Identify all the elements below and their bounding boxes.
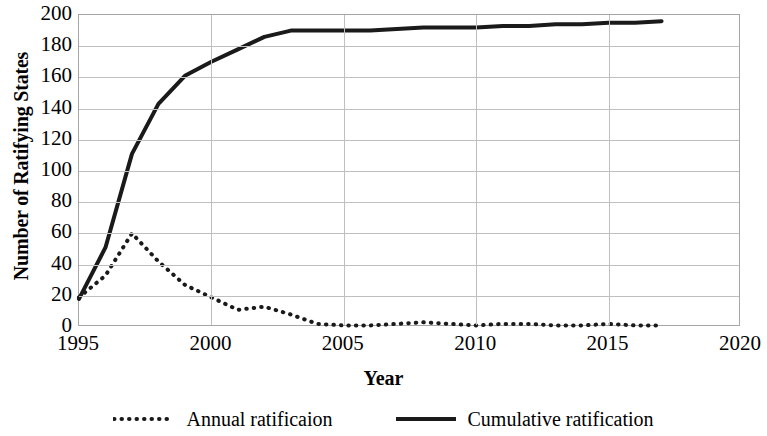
gridline-vertical <box>609 15 610 325</box>
legend-label-annual: Annual ratificaion <box>186 407 332 431</box>
x-tick-label: 2005 <box>298 331 388 355</box>
x-tick-label: 2020 <box>695 331 767 355</box>
gridline-horizontal <box>79 296 739 297</box>
solid-line-icon <box>395 413 457 425</box>
gridline-horizontal <box>79 171 739 172</box>
y-tick-label: 180 <box>22 34 72 55</box>
legend-label-cumulative: Cumulative ratification <box>468 407 654 431</box>
gridline-horizontal <box>79 109 739 110</box>
y-tick-label: 80 <box>22 190 72 211</box>
annual-ratification-line <box>79 233 662 325</box>
gridline-vertical <box>344 15 345 325</box>
gridline-horizontal <box>79 202 739 203</box>
y-tick-label: 60 <box>22 221 72 242</box>
y-tick-label: 100 <box>22 159 72 180</box>
gridline-horizontal <box>79 265 739 266</box>
y-tick-label: 140 <box>22 97 72 118</box>
chart-legend: Annual ratificaion Cumulative ratificati… <box>0 404 767 434</box>
gridline-vertical <box>476 15 477 325</box>
gridline-horizontal <box>79 233 739 234</box>
plot-area <box>78 14 740 326</box>
cumulative-ratification-line <box>79 21 662 299</box>
x-tick-label: 1995 <box>33 331 123 355</box>
y-tick-label: 40 <box>22 253 72 274</box>
gridline-vertical <box>211 15 212 325</box>
x-axis-title: Year <box>0 366 767 390</box>
x-tick-label: 2015 <box>563 331 653 355</box>
y-tick-label: 20 <box>22 284 72 305</box>
legend-item-cumulative: Cumulative ratification <box>395 407 654 431</box>
dotted-line-icon <box>113 413 175 425</box>
y-tick-label: 120 <box>22 128 72 149</box>
gridline-horizontal <box>79 77 739 78</box>
y-tick-label: 160 <box>22 65 72 86</box>
legend-item-annual: Annual ratificaion <box>113 407 332 431</box>
gridline-horizontal <box>79 140 739 141</box>
ratification-line-chart: Number of Ratifying States 0204060801001… <box>0 0 767 436</box>
x-tick-label: 2010 <box>430 331 520 355</box>
x-tick-label: 2000 <box>165 331 255 355</box>
y-tick-label: 200 <box>22 3 72 24</box>
gridline-horizontal <box>79 46 739 47</box>
x-axis-tick-labels: 199520002005201020152020 <box>0 331 767 361</box>
